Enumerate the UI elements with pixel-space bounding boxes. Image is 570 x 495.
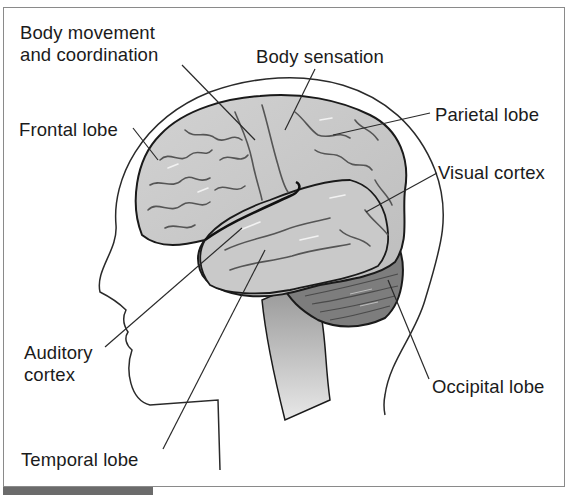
- label-body-movement-line1: Body movement: [20, 22, 158, 44]
- label-visual-cortex: Visual cortex: [438, 162, 545, 184]
- label-body-movement: Body movement and coordination: [20, 22, 158, 66]
- label-auditory-cortex: Auditory cortex: [24, 342, 93, 386]
- label-occipital-lobe: Occipital lobe: [432, 376, 544, 398]
- label-auditory-cortex-line1: Auditory: [24, 342, 93, 364]
- brain-illustration: [0, 0, 570, 495]
- label-temporal-lobe: Temporal lobe: [21, 449, 139, 471]
- label-auditory-cortex-line2: cortex: [24, 364, 93, 386]
- label-body-sensation: Body sensation: [256, 46, 384, 68]
- label-parietal-lobe: Parietal lobe: [435, 104, 539, 126]
- label-frontal-lobe: Frontal lobe: [19, 119, 118, 141]
- label-body-movement-line2: and coordination: [20, 44, 158, 66]
